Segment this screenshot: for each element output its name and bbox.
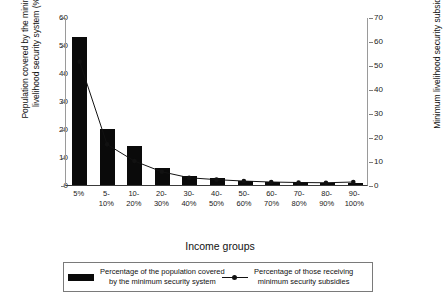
y-axis-right-title: Minimum livelihood security subsidy (%) [432,0,443,139]
y-tick-label-right: 60 [374,37,398,46]
line-marker [296,180,301,185]
y-tick-label-right: 10 [374,157,398,166]
line-marker [105,142,110,147]
legend-entry-line: Percentage of those receiving minimum se… [222,263,353,291]
x-axis-label: 90- 100% [338,189,370,208]
legend-bar-swatch-icon [68,274,94,281]
legend-line-swatch-icon [222,273,248,282]
y-tick-label-right: 40 [374,85,398,94]
legend-entry-bars: Percentage of the population covered by … [68,263,225,291]
y-tick-mark-right [369,138,373,139]
y-tick-mark-right [369,66,373,67]
y-tick-label-right: 50 [374,61,398,70]
y-tick-label-right: 20 [374,133,398,142]
y-axis-left-title: Population covered by the minimum liveli… [20,0,42,136]
line-marker [159,169,164,174]
line-marker [214,177,219,182]
line-marker [351,180,356,185]
y-tick-mark-left [61,186,65,187]
y-tick-mark-right [369,18,373,19]
line-marker [132,159,137,164]
line-path [80,62,354,183]
line-marker [77,59,82,64]
y-tick-mark-right [369,186,373,187]
y-tick-label-right: 30 [374,109,398,118]
y-tick-mark-right [369,90,373,91]
y-tick-mark-right [369,162,373,163]
x-axis-title: Income groups [60,240,380,252]
line-marker [269,180,274,185]
line-marker [324,180,329,184]
line-marker [187,175,192,180]
chart-legend: Percentage of the population covered by … [63,262,373,292]
legend-label-line: Percentage of those receiving minimum se… [254,267,353,287]
line-series [66,18,367,185]
line-marker [242,179,247,184]
y-tick-label-right: 0 [374,181,398,190]
y-tick-mark-right [369,114,373,115]
legend-label-bars: Percentage of the population covered by … [100,267,225,287]
plot-area [65,18,368,186]
y-tick-label-right: 70 [374,13,398,22]
y-tick-mark-right [369,42,373,43]
